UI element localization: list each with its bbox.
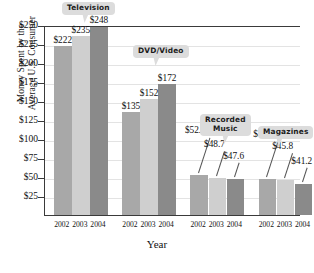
y-axis-tick-label: $50 — [4, 172, 38, 182]
group-callout-label: DVD/Video — [138, 47, 184, 56]
y-axis-tick-label: $200 — [4, 58, 38, 68]
bar-value-label: $222 — [46, 35, 80, 45]
y-axis-tick-label: $175 — [4, 77, 38, 87]
y-axis-tick-label: $125 — [4, 115, 38, 125]
bar-value-label: $235 — [64, 25, 98, 35]
bar — [158, 84, 176, 215]
group-callout: RecordedMusic — [200, 114, 251, 136]
y-axis-tick-label: $150 — [4, 96, 38, 106]
x-axis-tick-label: 2004 — [223, 220, 245, 229]
x-axis-title: Year — [0, 238, 314, 250]
x-axis-tick-label: 2004 — [292, 220, 314, 229]
value-leader-line — [302, 167, 308, 182]
bar — [259, 179, 277, 215]
callout-tail — [82, 14, 89, 23]
y-axis-tick-label: $100 — [4, 134, 38, 144]
group-callout: DVD/Video — [133, 45, 189, 58]
x-axis-tick-label: 2004 — [155, 220, 177, 229]
bar-value-label: $47.6 — [217, 151, 251, 161]
bar — [90, 27, 108, 215]
bar-chart: Money Spent by the Average U.S. Consumer… — [0, 0, 314, 273]
bar — [190, 175, 208, 215]
group-callout-label: Magazines — [263, 128, 308, 137]
bar-value-label: $45.8 — [266, 141, 300, 151]
bar — [140, 99, 158, 215]
figure-caption — [0, 263, 314, 273]
bar-value-label: $135 — [114, 101, 148, 111]
bar — [209, 178, 227, 215]
group-callout-label: Music — [205, 125, 246, 134]
callout-tail — [153, 57, 160, 66]
callout-tail — [276, 138, 283, 147]
group-callout-label: Television — [67, 4, 110, 13]
bar — [122, 112, 140, 215]
bar-value-label: $41.2 — [285, 156, 314, 166]
y-axis-tick-label: $225 — [4, 39, 38, 49]
y-axis-tick-label: $75 — [4, 153, 38, 163]
bar — [54, 46, 72, 215]
y-axis-tick-label: $25 — [4, 191, 38, 201]
group-callout: Magazines — [258, 126, 313, 139]
bar — [277, 180, 295, 215]
callout-tail — [221, 135, 228, 144]
x-axis-tick-label: 2004 — [87, 220, 109, 229]
value-leader-line — [234, 162, 240, 177]
bar — [227, 179, 245, 215]
y-axis-tick-label: $250 — [4, 20, 38, 30]
bar — [72, 36, 90, 215]
bar-value-label: $172 — [150, 73, 184, 83]
bar — [295, 184, 313, 215]
bar-value-label: $152 — [132, 88, 166, 98]
